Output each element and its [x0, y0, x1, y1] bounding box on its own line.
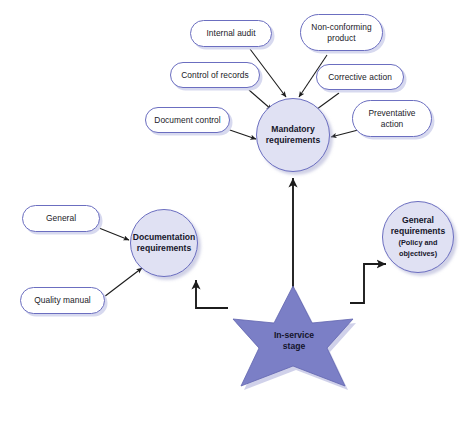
node-general-requirements-sublabel-2: objectives) — [399, 250, 437, 259]
node-non-conforming-product-label-1: Non-conforming — [311, 22, 371, 32]
node-quality-manual-label: Quality manual — [34, 295, 91, 305]
node-document-control[interactable]: Document control — [145, 107, 230, 133]
node-internal-audit-label: Internal audit — [206, 28, 255, 38]
node-internal-audit[interactable]: Internal audit — [190, 20, 272, 47]
node-control-of-records-label: Control of records — [181, 70, 248, 80]
node-general-requirements-label-1: General — [402, 215, 434, 226]
diagram-canvas: Internal audit Non-conforming product Co… — [0, 0, 470, 430]
node-mandatory-requirements[interactable]: Mandatory requirements — [256, 98, 330, 172]
node-preventative-action[interactable]: Preventative action — [352, 100, 432, 137]
node-control-of-records[interactable]: Control of records — [170, 62, 260, 88]
node-general-label: General — [46, 213, 76, 223]
star-shape — [218, 282, 370, 400]
arrow-general-to-documentation — [99, 228, 129, 240]
arrow-document-control-to-mandatory — [224, 128, 256, 139]
node-non-conforming-product-label-2: product — [327, 33, 355, 43]
node-documentation-requirements[interactable]: Documentation requirements — [130, 209, 198, 277]
node-general-requirements-sublabel-1: (Policy and — [399, 239, 438, 248]
node-preventative-action-label-1: Preventative — [368, 108, 415, 118]
node-mandatory-requirements-label-2: requirements — [266, 135, 320, 146]
node-preventative-action-label-2: action — [381, 119, 404, 129]
node-general-requirements-label-2: requirements — [391, 226, 445, 237]
node-mandatory-requirements-label-1: Mandatory — [271, 124, 314, 135]
arrow-quality-manual-to-documentation — [100, 268, 142, 300]
node-in-service-stage[interactable]: In-service stage — [218, 282, 370, 400]
node-documentation-requirements-label-1: Documentation — [133, 232, 196, 243]
node-document-control-label: Document control — [154, 115, 220, 125]
node-general[interactable]: General — [22, 205, 100, 232]
node-corrective-action-label: Corrective action — [328, 72, 392, 82]
node-corrective-action[interactable]: Corrective action — [316, 64, 404, 90]
node-general-requirements[interactable]: General requirements (Policy and objecti… — [382, 201, 454, 273]
node-quality-manual[interactable]: Quality manual — [20, 287, 105, 314]
node-non-conforming-product[interactable]: Non-conforming product — [300, 14, 383, 51]
node-documentation-requirements-label-2: requirements — [137, 243, 191, 254]
